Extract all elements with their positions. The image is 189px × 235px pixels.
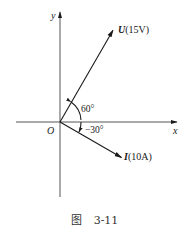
x-axis-label: x <box>172 125 178 136</box>
u-angle-label: 60° <box>81 104 95 114</box>
caption-number: 3-11 <box>94 214 119 227</box>
caption-prefix: 图 <box>71 214 82 227</box>
i-phasor-label: I(10A) <box>123 151 152 163</box>
u-value: (15V) <box>125 24 149 36</box>
i-angle-label: −30° <box>85 125 104 135</box>
phasor-diagram: y x O U(15V) I(10A) 60° −30° <box>0 0 189 235</box>
figure-caption: 图3-11 <box>0 211 189 227</box>
i-value: (10A) <box>128 151 152 163</box>
i-angle-arc <box>79 122 81 132</box>
origin-label: O <box>47 125 54 136</box>
u-phasor-label: U(15V) <box>118 24 149 36</box>
y-axis-label: y <box>50 10 56 21</box>
u-angle-arc <box>71 102 81 120</box>
